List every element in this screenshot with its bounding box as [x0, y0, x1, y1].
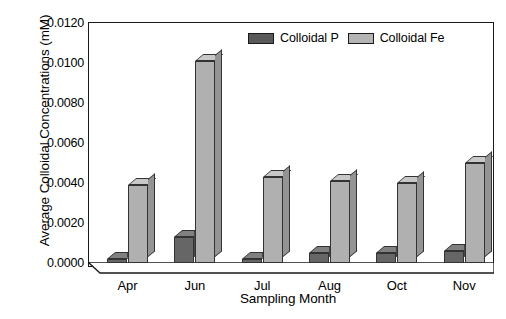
bar-side-face — [215, 49, 222, 257]
bar-oct-colloidal-fe — [397, 183, 417, 263]
chart-legend: Colloidal P Colloidal Fe — [248, 31, 444, 45]
bar-front-face — [195, 61, 215, 263]
bar-chart-figure: Average Colloidal Concentrations (mM) 0.… — [0, 0, 506, 319]
y-tick-label: 0.0100 — [26, 56, 84, 70]
bar-oct-colloidal-p — [376, 253, 396, 263]
legend-label-colloidal-fe: Colloidal Fe — [380, 31, 445, 45]
legend-entry-colloidal-fe: Colloidal Fe — [348, 31, 445, 45]
legend-swatch-colloidal-p — [248, 33, 274, 44]
bar-front-face — [107, 259, 127, 263]
y-tick-label: 0.0000 — [26, 256, 84, 270]
bar-nov-colloidal-fe — [465, 163, 485, 263]
bar-side-face — [417, 171, 424, 257]
y-tick-label: 0.0040 — [26, 176, 84, 190]
bar-series-container — [89, 23, 493, 263]
bar-apr-colloidal-fe — [128, 185, 148, 263]
legend-entry-colloidal-p: Colloidal P — [248, 31, 339, 45]
bar-front-face — [465, 163, 485, 263]
y-tick-label: 0.0120 — [26, 16, 84, 30]
bar-nov-colloidal-p — [444, 251, 464, 263]
bar-jun-colloidal-p — [174, 237, 194, 263]
bar-jul-colloidal-p — [242, 259, 262, 263]
legend-swatch-colloidal-fe — [348, 33, 374, 44]
bar-side-face — [485, 151, 492, 257]
bar-side-face — [350, 169, 357, 257]
bar-apr-colloidal-p — [107, 259, 127, 263]
bar-front-face — [309, 253, 329, 263]
bar-jun-colloidal-fe — [195, 61, 215, 263]
legend-label-colloidal-p: Colloidal P — [280, 31, 339, 45]
y-tick-label: 0.0060 — [26, 136, 84, 150]
y-axis-tick-labels: 0.00000.00200.00400.00600.00800.01000.01… — [22, 22, 84, 267]
bar-front-face — [330, 181, 350, 263]
bar-front-face — [128, 185, 148, 263]
y-tick-label: 0.0020 — [26, 216, 84, 230]
bar-side-face — [283, 165, 290, 257]
y-tick-label: 0.0080 — [26, 96, 84, 110]
bar-side-face — [148, 173, 155, 257]
x-axis-label: Sampling Month — [88, 291, 488, 306]
bar-aug-colloidal-fe — [330, 181, 350, 263]
bar-front-face — [263, 177, 283, 263]
bar-aug-colloidal-p — [309, 253, 329, 263]
bar-front-face — [397, 183, 417, 263]
bar-front-face — [376, 253, 396, 263]
bar-jul-colloidal-fe — [263, 177, 283, 263]
bar-front-face — [174, 237, 194, 263]
bar-front-face — [444, 251, 464, 263]
bar-front-face — [242, 259, 262, 263]
